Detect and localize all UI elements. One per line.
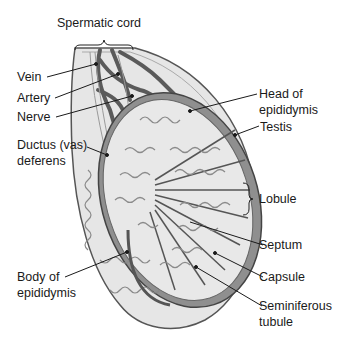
label-artery: Artery <box>17 91 50 105</box>
label-head-line1: Head of <box>259 87 303 101</box>
label-spermatic-cord: Spermatic cord <box>57 16 141 30</box>
label-head-line2: epididymis <box>259 103 318 117</box>
label-septum: Septum <box>259 238 302 252</box>
label-nerve: Nerve <box>17 110 50 124</box>
label-lobule: Lobule <box>259 192 297 206</box>
label-ductus-line2: deferens <box>17 154 66 168</box>
label-testis: Testis <box>260 120 292 134</box>
label-seminiferous-line2: tubule <box>259 315 293 329</box>
label-vein: Vein <box>17 70 41 84</box>
label-capsule: Capsule <box>259 270 305 284</box>
label-ductus-line1: Ductus (vas) <box>17 138 87 152</box>
label-body-line1: Body of <box>17 270 59 284</box>
label-seminiferous-line1: Seminiferous <box>259 299 332 313</box>
label-body-line2: epididymis <box>17 286 76 300</box>
